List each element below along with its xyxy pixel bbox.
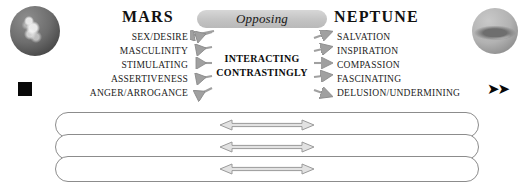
neptune-keyword-item: FASCINATING bbox=[337, 72, 497, 86]
interaction-line-1: INTERACTING bbox=[207, 52, 317, 66]
neptune-keyword-item: INSPIRATION bbox=[337, 44, 497, 58]
neptune-keyword-item: SALVATION bbox=[337, 30, 497, 44]
neptune-keyword-list: SALVATION INSPIRATION COMPASSION FASCINA… bbox=[337, 30, 497, 100]
mars-title: MARS bbox=[122, 8, 174, 26]
relationship-bars bbox=[55, 112, 479, 182]
double-headed-arrow bbox=[218, 139, 316, 155]
opposing-pill: Opposing bbox=[197, 10, 327, 28]
mars-keyword-item: ASSERTIVENESS bbox=[60, 72, 188, 86]
mars-symbol-glyph bbox=[18, 82, 32, 96]
mars-neptune-opposition-diagram: ➤➤ MARS NEPTUNE Opposing SEX/DESIRE MASC… bbox=[0, 0, 528, 188]
opposing-label: Opposing bbox=[236, 11, 288, 27]
mars-keyword-item: SEX/DESIRE bbox=[60, 30, 188, 44]
double-headed-arrow bbox=[218, 117, 316, 133]
mars-keyword-item: STIMULATING bbox=[60, 58, 188, 72]
neptune-title: NEPTUNE bbox=[334, 8, 419, 26]
interaction-label: INTERACTING CONTRASTINGLY bbox=[207, 52, 317, 80]
interaction-line-2: CONTRASTINGLY bbox=[207, 66, 317, 80]
neptune-keyword-item: DELUSION/UNDERMINING bbox=[337, 86, 497, 100]
double-headed-arrow bbox=[218, 161, 316, 177]
mars-keyword-item: ANGER/ARROGANCE bbox=[60, 86, 188, 100]
neptune-keyword-item: COMPASSION bbox=[337, 58, 497, 72]
mars-planet-image bbox=[10, 6, 60, 56]
mars-keyword-item: MASCULINITY bbox=[60, 44, 188, 58]
mars-keyword-list: SEX/DESIRE MASCULINITY STIMULATING ASSER… bbox=[60, 30, 188, 100]
